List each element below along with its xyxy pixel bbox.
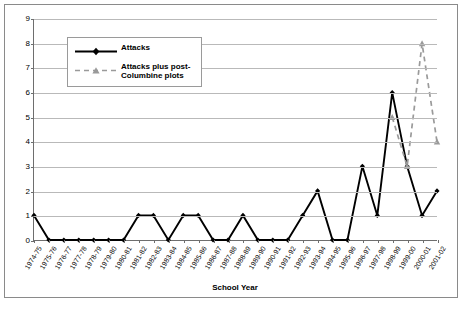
legend-item-attacks: Attacks xyxy=(74,43,195,54)
x-axis-tick-mark xyxy=(303,240,304,243)
chart-legend: Attacks Attacks plus post-Columbine plot… xyxy=(67,37,202,87)
x-axis-tick-mark xyxy=(333,240,334,243)
x-axis-tick-mark xyxy=(64,240,65,243)
x-axis-tick-mark xyxy=(154,240,155,243)
x-axis-tick-mark xyxy=(184,240,185,243)
y-axis-tick-label: 7 xyxy=(26,64,30,72)
y-axis-tick-mark xyxy=(31,93,34,94)
y-axis-tick-mark xyxy=(31,142,34,143)
y-axis-tick-label: 8 xyxy=(26,40,30,48)
y-axis-tick-label: 3 xyxy=(26,163,30,171)
x-axis-tick-mark xyxy=(229,240,230,243)
y-axis-tick-label: 6 xyxy=(26,89,30,97)
x-axis-tick-mark xyxy=(214,240,215,243)
x-axis-tick-mark xyxy=(139,240,140,243)
x-axis-tick-mark xyxy=(408,240,409,243)
x-axis-tick-mark xyxy=(169,240,170,243)
y-axis-tick-label: 2 xyxy=(26,188,30,196)
x-axis-tick-mark xyxy=(273,240,274,243)
y-axis-tick-label: 4 xyxy=(26,138,30,146)
series-attacks-plus-plots xyxy=(389,40,440,169)
series-line xyxy=(392,44,437,167)
x-axis-tick-mark xyxy=(288,240,289,243)
y-axis-tick-label: 1 xyxy=(26,212,30,220)
chart-container: 01234567891974-751975-761976-771977-7819… xyxy=(0,0,462,310)
gridline xyxy=(34,93,437,94)
gridline xyxy=(34,216,437,217)
x-axis-tick-mark xyxy=(378,240,379,243)
y-axis-tick-mark xyxy=(31,68,34,69)
gridline xyxy=(34,192,437,193)
y-axis-tick-label: 9 xyxy=(26,15,30,23)
legend-key-dashed-line xyxy=(74,62,118,73)
x-axis-tick-mark xyxy=(423,240,424,243)
legend-label-attacks: Attacks xyxy=(121,43,150,52)
gridline xyxy=(34,142,437,143)
x-axis-tick-mark xyxy=(243,240,244,243)
x-axis-tick-mark xyxy=(109,240,110,243)
gridline xyxy=(34,19,437,20)
x-axis-tick-mark xyxy=(438,240,439,243)
y-axis-tick-mark xyxy=(31,192,34,193)
x-axis-tick-mark xyxy=(49,240,50,243)
x-axis-title: School Year xyxy=(33,283,437,292)
x-axis-tick-mark xyxy=(34,240,35,243)
legend-label-attacks-plus-plots: Attacks plus post-Columbine plots xyxy=(121,62,195,80)
x-axis-tick-mark xyxy=(348,240,349,243)
x-axis-tick-mark xyxy=(94,240,95,243)
x-axis-tick-mark xyxy=(258,240,259,243)
y-axis-tick-mark xyxy=(31,216,34,217)
gridline xyxy=(34,118,437,119)
legend-dashed-swatch xyxy=(74,65,118,76)
x-axis-tick-mark xyxy=(199,240,200,243)
y-axis-tick-mark xyxy=(31,19,34,20)
y-axis-tick-label: 0 xyxy=(26,237,30,245)
legend-solid-swatch xyxy=(74,46,118,57)
x-axis-tick-mark xyxy=(79,240,80,243)
legend-key-solid-line xyxy=(74,43,118,54)
x-axis-tick-mark xyxy=(124,240,125,243)
y-axis-tick-mark xyxy=(31,167,34,168)
gridline xyxy=(34,167,437,168)
legend-item-attacks-plus-plots: Attacks plus post-Columbine plots xyxy=(74,62,195,80)
y-axis-tick-mark xyxy=(31,44,34,45)
y-axis-tick-mark xyxy=(31,118,34,119)
x-axis-tick-mark xyxy=(363,240,364,243)
x-axis-tick-mark xyxy=(393,240,394,243)
y-axis-tick-label: 5 xyxy=(26,114,30,122)
x-axis-tick-mark xyxy=(318,240,319,243)
